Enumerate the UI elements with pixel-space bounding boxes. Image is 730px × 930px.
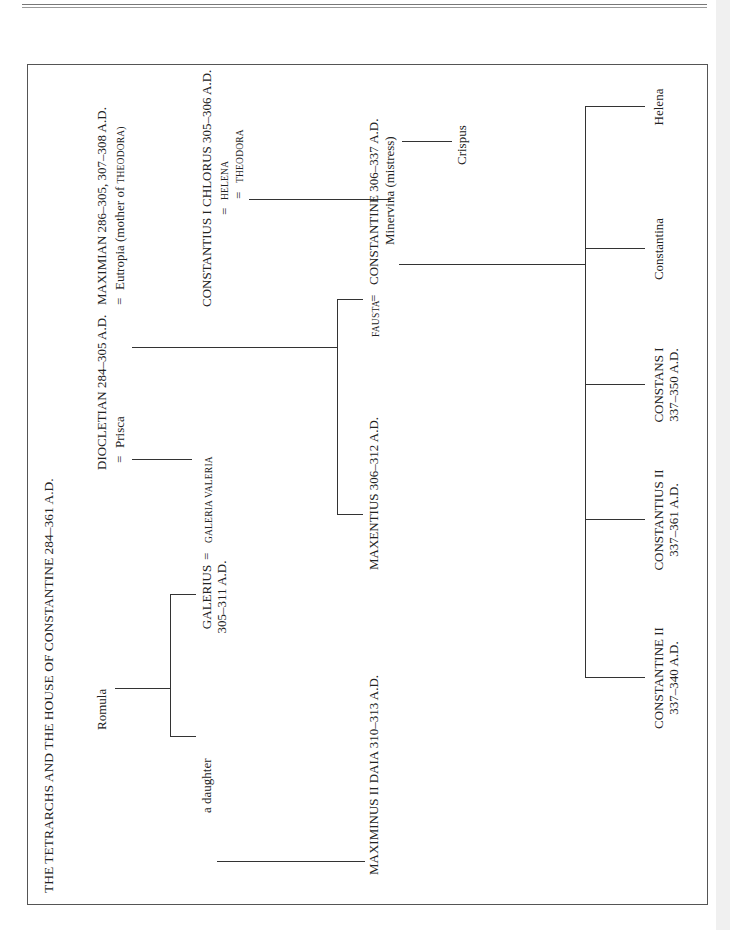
person-eutropia: Eutropia (mother of THEODORA) — [113, 126, 128, 290]
person-constantius-ii: CONSTANTIUS II — [652, 460, 666, 580]
person-helena-daughter: Helena — [652, 67, 666, 147]
person-maximinus: MAXIMINUS II DAIA 310–313 A.D. — [367, 675, 381, 875]
header-rule — [22, 4, 707, 5]
person-galerius: GALERIUS — [200, 547, 214, 647]
header-rule-secondary — [22, 7, 707, 8]
person-minervina: Minervina (mistress) — [383, 136, 397, 245]
person-galeria-valeria: GALERIA VALERIA — [202, 456, 216, 543]
line-maximian-children — [132, 347, 337, 348]
line-to-constantine-ii — [585, 677, 645, 678]
family-tree-canvas: THE TETRARCHS AND THE HOUSE OF CONSTANTI… — [27, 64, 708, 905]
line-to-galerius — [170, 594, 196, 595]
line-to-constantina — [585, 248, 645, 249]
person-a-daughter: a daughter — [200, 758, 214, 813]
person-diocletian: DIOCLETIAN 284–305 A.D. — [95, 315, 109, 470]
person-constans-i: CONSTANS I — [652, 335, 666, 435]
person-theodora: THEODORA — [233, 129, 247, 183]
line-to-helena — [585, 106, 645, 107]
married-symbol: = — [113, 298, 127, 305]
person-maxentius: MAXENTIUS 306–312 A.D. — [367, 417, 381, 570]
person-helena-wife: HELENA — [218, 161, 232, 200]
line-children-bracket — [585, 106, 586, 678]
married-symbol: = — [232, 192, 246, 199]
constantine-ii-dates: 337–340 A.D. — [667, 618, 681, 738]
line-to-constantius-ii — [585, 519, 645, 520]
person-constantine: CONSTANTINE 306–337 A.D. — [367, 118, 381, 285]
line-to-daughter — [170, 736, 196, 737]
line-to-fausta — [337, 299, 363, 300]
person-maximian: MAXIMIAN 286–305, 307–308 A.D. — [95, 107, 109, 305]
line-maximian-bracket — [337, 300, 338, 515]
person-constantina: Constantina — [652, 199, 666, 299]
person-constantine-ii: CONSTANTINE II — [652, 618, 666, 738]
married-symbol: = — [200, 553, 214, 560]
line-romula-children — [170, 595, 171, 737]
person-crispus: Crispus — [455, 125, 469, 165]
line-constantine-children — [399, 264, 585, 265]
line-to-constans-i — [585, 384, 645, 385]
constantius-ii-dates: 337–361 A.D. — [667, 460, 681, 580]
page-edge-shadow — [716, 0, 730, 930]
line-to-maxentius — [337, 514, 363, 515]
line-diocletian-child — [132, 459, 192, 460]
married-symbol: = — [367, 295, 381, 302]
constans-i-dates: 337–350 A.D. — [667, 335, 681, 435]
line-romula-down — [115, 688, 170, 689]
person-romula: Romula — [95, 689, 109, 730]
galerius-dates: 305–311 A.D. — [215, 547, 229, 647]
person-prisca: Prisca — [113, 416, 127, 448]
married-symbol: = — [218, 208, 232, 215]
person-constantius-chlorus: CONSTANTIUS I CHLORUS 305–306 A.D. — [200, 70, 214, 307]
married-symbol: = — [113, 456, 127, 463]
person-fausta: FAUSTA — [369, 300, 383, 337]
diagram-title: THE TETRARCHS AND THE HOUSE OF CONSTANTI… — [42, 478, 56, 893]
line-minervina-crispus — [402, 141, 452, 142]
line-daughter-maximinus — [217, 861, 365, 862]
